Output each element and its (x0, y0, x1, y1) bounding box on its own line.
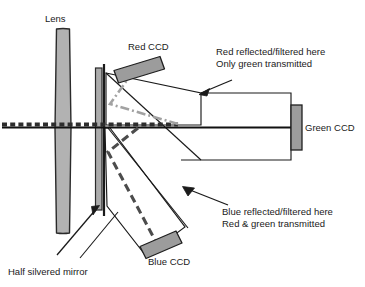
half-silvered-mirror-group (96, 64, 105, 216)
red-note-line-1: Red reflected/filtered here (216, 46, 325, 57)
optical-diagram: Lens Red CCD Blue CCD Green CCD Red refl… (0, 0, 365, 287)
lens-element (55, 29, 71, 234)
lens-label: Lens (45, 13, 66, 24)
red-ccd (114, 57, 165, 84)
red-note-leader (199, 80, 232, 96)
blue-note-leader (183, 187, 229, 206)
lens-group (55, 29, 71, 234)
mirror-note-leader-line-2 (80, 212, 118, 258)
half-silvered-mirror (96, 68, 103, 210)
red-ccd-body (114, 57, 165, 84)
half-silvered-mirror-label: Half silvered mirror (8, 266, 88, 277)
green-ccd-body (291, 105, 302, 150)
green-ccd (291, 105, 302, 150)
diagram-canvas: Lens Red CCD Blue CCD Green CCD Red refl… (0, 0, 365, 287)
blue-ccd-label: Blue CCD (148, 256, 190, 267)
red-ccd-label: Red CCD (128, 41, 169, 52)
red-note-arrowhead (199, 89, 210, 97)
blue-note-line-2: Red & green transmitted (222, 218, 325, 229)
green-ccd-label: Green CCD (305, 122, 355, 133)
blue-note-line-1: Blue reflected/filtered here (222, 206, 333, 217)
red-note-line-2: Only green transmitted (216, 58, 312, 69)
